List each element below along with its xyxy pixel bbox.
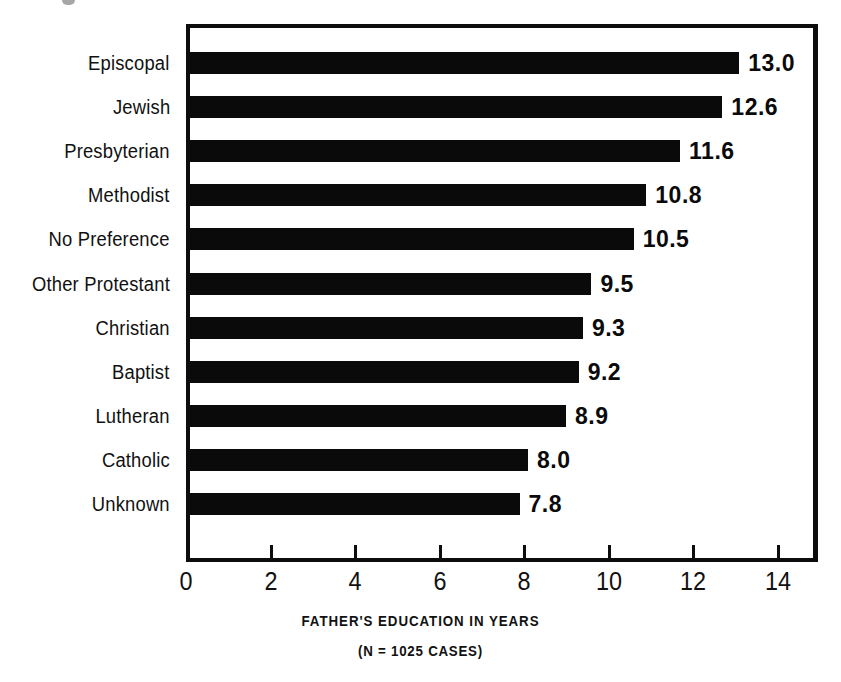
tick-label: 10 [582, 566, 636, 597]
bar-row: 10.8 [190, 184, 830, 206]
bar-row: 13.0 [190, 52, 830, 74]
category-label: Christian [96, 317, 170, 339]
bar-value-label: 11.6 [689, 138, 735, 164]
tick-label: 6 [413, 566, 467, 597]
bar-row: 8.0 [190, 449, 830, 471]
bar-row: 10.5 [190, 228, 830, 250]
bar [190, 273, 591, 295]
tick-label: 8 [497, 566, 551, 597]
category-label: Baptist [112, 361, 170, 383]
bar-value-label: 9.2 [588, 359, 621, 385]
bar [190, 493, 520, 515]
category-label: Unknown [92, 493, 170, 515]
category-label: Methodist [89, 184, 170, 206]
tick-mark [439, 545, 442, 562]
tick-mark [692, 545, 695, 562]
bar-row: 7.8 [190, 493, 830, 515]
bar-value-label: 9.3 [592, 315, 625, 341]
bar [190, 361, 579, 383]
bar-value-label: 8.9 [575, 403, 608, 429]
category-axis-labels: EpiscopalJewishPresbyterianMethodistNo P… [0, 24, 178, 537]
category-label: Jewish [113, 96, 170, 118]
category-label: Episcopal [89, 52, 170, 74]
tick-mark [523, 545, 526, 562]
bar-value-label: 9.5 [600, 271, 633, 297]
bar [190, 96, 722, 118]
tick-label: 0 [159, 566, 213, 597]
tick-mark [777, 545, 780, 562]
tick-mark [608, 545, 611, 562]
tick-label: 2 [244, 566, 298, 597]
bar-row: 8.9 [190, 405, 830, 427]
tick-mark [354, 545, 357, 562]
bar-value-label: 8.0 [537, 447, 570, 473]
bars-layer: 13.012.611.610.810.59.59.39.28.98.07.8 [190, 24, 830, 562]
bar-value-label: 12.6 [731, 94, 778, 120]
bar-row: 11.6 [190, 140, 830, 162]
category-label: No Preference [49, 228, 170, 250]
bar-value-label: 10.5 [643, 226, 690, 252]
bar-chart-figure: EpiscopalJewishPresbyterianMethodistNo P… [0, 0, 841, 682]
tick-label: 14 [751, 566, 805, 597]
bar-row: 9.2 [190, 361, 830, 383]
category-label: Catholic [102, 449, 170, 471]
bar [190, 449, 528, 471]
category-label: Lutheran [96, 405, 170, 427]
tick-label: 12 [666, 566, 720, 597]
sample-size-note: (N = 1025 CASES) [21, 643, 820, 659]
bar-value-label: 10.8 [655, 182, 702, 208]
bar-row: 12.6 [190, 96, 830, 118]
bar-row: 9.3 [190, 317, 830, 339]
bar-value-label: 13.0 [748, 50, 795, 76]
tick-label: 4 [328, 566, 382, 597]
tick-mark [270, 545, 273, 562]
bar [190, 140, 680, 162]
x-axis-title: FATHER'S EDUCATION IN YEARS [21, 613, 820, 629]
bar [190, 317, 583, 339]
category-label: Presbyterian [64, 140, 170, 162]
bar [190, 184, 646, 206]
bar-value-label: 7.8 [529, 491, 562, 517]
x-axis-ticks [186, 538, 818, 562]
category-label: Other Protestant [32, 273, 170, 295]
bar [190, 405, 566, 427]
bar [190, 228, 634, 250]
bar-row: 9.5 [190, 273, 830, 295]
scan-artifact [62, 0, 75, 5]
bar [190, 52, 739, 74]
